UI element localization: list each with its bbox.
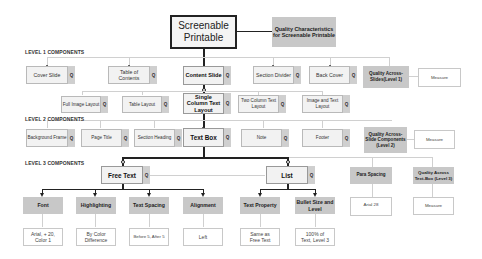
q-tag: Q	[101, 96, 108, 113]
quality-across-slide-components-l2: Quality Across-Slide Components (Level 2…	[364, 127, 407, 153]
connector	[289, 157, 433, 158]
root-quality-box: Quality Characteristics for Screenable P…	[272, 17, 336, 47]
connector	[315, 214, 316, 227]
node-two-column-text-layout: Two Column Text Layout	[238, 95, 279, 113]
prop-highlighting: Highlighting	[76, 197, 116, 214]
measure-box-l1: Measure	[418, 68, 461, 87]
value-alignment: Left	[183, 228, 223, 246]
connector	[100, 120, 101, 128]
quality-across-slides-l1: Quality Across-Slides(Level 1)	[363, 66, 409, 88]
connector	[154, 120, 155, 128]
connector	[149, 214, 150, 227]
connector	[47, 120, 392, 121]
connector	[372, 157, 373, 167]
connector	[203, 146, 205, 157]
level-1-label: LEVEL 1 COMPONENTS	[25, 49, 84, 55]
node-content-slide: Content Slide	[183, 66, 224, 85]
prop-font: Font	[23, 197, 63, 214]
node-table-of-contents: Table of Contents	[108, 66, 150, 84]
connector	[432, 157, 433, 167]
connector	[47, 57, 390, 58]
q-tag: Q	[68, 66, 75, 84]
q-tag: Q	[175, 129, 182, 147]
q-tag: Q	[343, 95, 350, 113]
q-tag: Q	[350, 66, 357, 84]
root-node: Screenable Printable	[170, 15, 237, 49]
connector	[95, 214, 96, 227]
value-highlighting: By Color Difference	[76, 228, 116, 246]
value-text-property: Same as Free Text	[240, 228, 280, 246]
node-footer: Footer	[302, 129, 343, 147]
connector	[203, 214, 204, 227]
connector	[42, 189, 204, 190]
node-background-frame: Background Frame	[26, 129, 68, 147]
connector	[260, 214, 261, 227]
level-3-label: LEVEL 3 COMPONENTS	[25, 160, 84, 166]
q-tag: Q	[279, 95, 286, 113]
node-table-layout: Table Layout	[122, 96, 162, 113]
q-tag: Q	[308, 166, 315, 184]
measure-box-l3: Measure	[413, 197, 454, 215]
connector	[432, 183, 433, 197]
connector	[142, 91, 143, 95]
q-tag: Q	[68, 129, 75, 147]
value-text-spacing: Before 5, After 5	[129, 228, 169, 246]
node-full-image-layout: Full Image Layout	[61, 96, 101, 113]
quality-across-text-box-l3: Quality Across Text-Box (Level 3)	[413, 167, 454, 184]
q-tag: Q	[162, 96, 169, 113]
connector	[389, 57, 390, 66]
prop-alignment: Alignment	[183, 197, 223, 214]
connector	[407, 139, 414, 140]
connector	[263, 120, 264, 128]
connector	[82, 91, 322, 92]
prop-bullet-size-and-level: Bullet Size and Level	[295, 197, 335, 214]
connector-ring	[286, 160, 290, 164]
node-section-divider: Section Divider	[253, 66, 294, 84]
connector	[322, 120, 323, 128]
connector	[372, 183, 373, 197]
node-page-title: Page Title	[81, 129, 122, 147]
connector	[82, 91, 83, 95]
node-section-heading: Section Heading	[134, 129, 175, 147]
level-2-label: LEVEL 2 COMPONENTS	[25, 116, 84, 122]
node-back-cover: Back Cover	[309, 66, 350, 84]
prop-text-spacing: Text Spacing	[129, 197, 169, 214]
value-font: Arial, + 20, Color 1	[23, 228, 63, 246]
q-tag: Q	[282, 129, 289, 147]
q-tag: Q	[224, 93, 231, 114]
measure-box-l2: Measure	[414, 130, 455, 149]
q-tag: Q	[122, 129, 129, 147]
connector	[260, 189, 315, 190]
value-bullet-size-and-level: 100% of Text, Level 3	[295, 228, 335, 246]
q-tag: Q	[224, 66, 231, 85]
node-image-and-text-layout: Image and Text Layout	[302, 95, 343, 113]
connector	[42, 214, 43, 227]
q-tag: Q	[150, 66, 157, 84]
q-tag: Q	[224, 128, 231, 147]
node-free-text: Free Text	[101, 166, 143, 184]
para-spacing-value: Arial 28	[350, 197, 392, 216]
connector-ring	[121, 160, 125, 164]
node-list: List	[266, 166, 308, 184]
connector	[150, 175, 265, 176]
node-para-spacing: Para Spacing	[350, 167, 392, 184]
node-note: Note	[241, 129, 282, 147]
q-tag: Q	[343, 129, 350, 147]
node-single-column-text-layout: Single Column Text Layout	[183, 93, 224, 114]
q-tag: Q	[294, 66, 301, 84]
connector	[237, 31, 272, 32]
connector	[122, 157, 289, 159]
connector	[409, 76, 418, 77]
node-text-box: Text Box	[183, 128, 224, 147]
node-cover-slide: Cover Slide	[26, 66, 68, 84]
q-tag: Q	[143, 166, 150, 184]
prop-text-property: Text Property	[240, 197, 280, 214]
